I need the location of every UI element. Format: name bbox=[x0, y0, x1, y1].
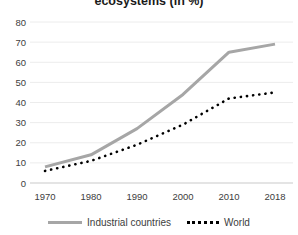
x-tick-label: 2000 bbox=[172, 191, 193, 202]
y-tick-label: 50 bbox=[15, 77, 26, 88]
plot-area: 0102030405060708019701980199020002010201… bbox=[0, 0, 298, 206]
world-dotted-swatch bbox=[187, 221, 219, 224]
y-tick-label: 30 bbox=[15, 117, 26, 128]
x-tick-label: 1980 bbox=[80, 191, 101, 202]
y-tick-label: 80 bbox=[15, 17, 26, 28]
chart-container: ecosystems (in %) 0102030405060708019701… bbox=[0, 0, 298, 235]
x-tick-label: 1990 bbox=[126, 191, 147, 202]
legend-item-world: World bbox=[187, 217, 250, 228]
y-tick-label: 10 bbox=[15, 157, 26, 168]
industrial-countries-line-swatch bbox=[48, 221, 82, 224]
y-tick-label: 70 bbox=[15, 37, 26, 48]
y-tick-label: 0 bbox=[21, 178, 26, 189]
y-tick-label: 20 bbox=[15, 137, 26, 148]
y-tick-label: 60 bbox=[15, 57, 26, 68]
legend-label-world: World bbox=[224, 217, 250, 228]
x-tick-label: 2010 bbox=[218, 191, 239, 202]
x-tick-label: 2018 bbox=[264, 191, 285, 202]
x-tick-label: 1970 bbox=[34, 191, 55, 202]
legend-item-industrial-countries: Industrial countries bbox=[48, 217, 171, 228]
legend: Industrial countries World bbox=[0, 217, 298, 228]
y-tick-label: 40 bbox=[15, 97, 26, 108]
legend-label-industrial-countries: Industrial countries bbox=[87, 217, 171, 228]
